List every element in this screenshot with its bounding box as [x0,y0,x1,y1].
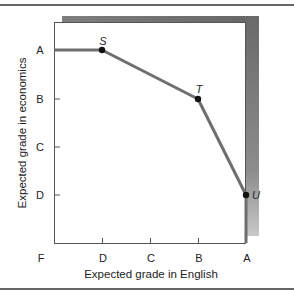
x-tick-label-f: F [38,252,45,264]
point-u [243,192,249,198]
x-tick-label-d: D [99,252,107,264]
ppf-chart: A B C D F D C B A Expected grade in Engl… [0,0,294,290]
y-tick-label-d: D [36,189,44,201]
y-axis-title: Expected grade in economics [16,57,28,208]
x-tick-label-b: B [195,252,202,264]
x-axis-title: Expected grade in English [84,268,218,280]
y-tick-label-b: B [36,93,43,105]
point-s [99,47,105,53]
x-tick-label-c: C [147,252,155,264]
point-t [195,96,201,102]
point-label-s: S [99,35,107,47]
x-tick-label-a: A [243,252,251,264]
plot-area [55,23,246,244]
y-tick-label-a: A [36,44,44,56]
point-label-u: U [252,189,260,201]
shadow-top-band [62,16,259,23]
y-tick-label-c: C [36,141,44,153]
